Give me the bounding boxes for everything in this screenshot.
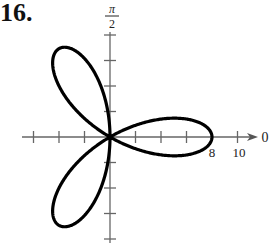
polar-graph: 0 8 10 π 2 — [0, 0, 273, 243]
tick-label-10: 10 — [233, 145, 246, 160]
tick-label-8: 8 — [209, 145, 216, 160]
zero-label: 0 — [262, 130, 269, 145]
pi-label: π — [109, 2, 116, 16]
two-label: 2 — [109, 17, 115, 31]
axes — [22, 32, 258, 243]
